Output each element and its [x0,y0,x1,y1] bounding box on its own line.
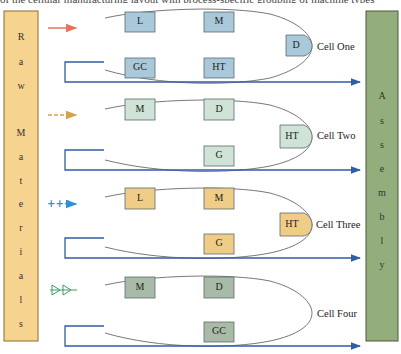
assembly-letter: m [378,187,386,198]
raw-materials-letter: a [19,270,24,281]
machine-box: L [125,12,155,32]
svg-text:M: M [136,103,145,114]
assembly-letter: s [380,139,384,150]
assembly-letter: l [381,235,384,246]
machine-box: L [125,188,155,209]
machine-box: M [204,12,234,32]
machine-box: D [286,35,312,56]
svg-text:G: G [215,237,222,248]
svg-text:D: D [215,281,222,292]
raw-materials-bar: R a w M a t e r i a l s [4,11,38,341]
assembly-letter: A [378,90,386,101]
machine-box: GC [125,58,155,78]
svg-text:D: D [215,103,222,114]
machine-box: D [204,99,234,120]
machine-box: M [204,188,234,209]
svg-text:GC: GC [212,325,226,336]
raw-materials-letter: a [19,151,24,162]
svg-text:HT: HT [212,61,225,72]
svg-text:HT: HT [285,218,298,229]
raw-materials-letter: a [19,56,24,67]
svg-text:L: L [137,192,143,203]
cell-three: +++ L M HT G Cell Three [47,188,361,258]
machine-box: GC [204,322,234,342]
raw-materials-letter: t [20,175,23,186]
raw-materials-letter: i [20,246,23,257]
svg-text:L: L [137,15,143,26]
assembly-letter: e [380,163,385,174]
svg-text:D: D [292,39,299,50]
double-triangle-arrow-icon [50,285,77,295]
raw-materials-letter: s [19,318,23,329]
svg-text:HT: HT [285,130,298,141]
assembly-bar: A s s e m b l y [366,11,398,341]
cell-label: Cell One [317,41,355,52]
plus-arrow-icon: +++ [47,198,76,209]
machine-box: HT [280,125,312,148]
raw-materials-letter: w [17,80,25,91]
svg-text:GC: GC [133,61,147,72]
cell-one: L M D GC HT Cell One [48,9,360,83]
raw-materials-letter: M [17,127,26,138]
raw-materials-letter: e [19,198,24,209]
raw-materials-letter: R [18,31,25,42]
assembly-letter: s [380,115,384,126]
machine-box: M [125,277,155,298]
machine-box: M [125,99,155,120]
machine-box: HT [280,213,312,236]
assembly-letter: b [380,211,385,222]
raw-materials-letter: l [20,294,23,305]
assembly-letter: y [380,259,385,270]
svg-text:M: M [136,281,145,292]
cell-label: Cell Two [317,130,355,141]
machine-box: D [204,277,234,298]
cell-two: M D HT G Cell Two [48,99,360,171]
cell-label: Cell Four [317,308,357,319]
svg-text:M: M [215,15,224,26]
cell-label: Cell Three [316,219,361,230]
machine-box: HT [204,58,234,78]
machine-box: G [204,146,234,166]
svg-text:G: G [215,149,222,160]
machine-box: G [204,234,234,254]
svg-text:M: M [215,192,224,203]
cell-four: M D GC Cell Four [50,276,360,346]
